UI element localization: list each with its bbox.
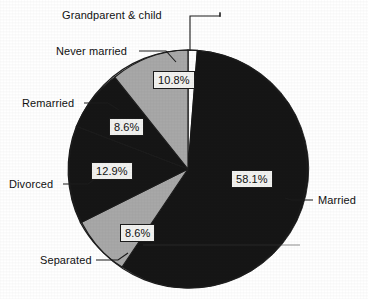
slice-percent-married: 58.1%: [231, 170, 273, 188]
leader-line-grandparent-child: [190, 12, 220, 51]
slice-label-divorced: Divorced: [9, 178, 53, 190]
slice-label-separated: Separated: [40, 254, 92, 266]
slice-percent-divorced: 12.9%: [91, 162, 133, 180]
slice-percent-separated: 8.6%: [120, 224, 155, 242]
slice-label-never-married: Never married: [56, 45, 127, 57]
pie-chart: Grandparent & child Never married Remarr…: [0, 0, 368, 299]
slice-percent-remarried: 8.6%: [109, 118, 144, 136]
slice-label-married: Married: [318, 194, 356, 206]
slice-label-grandparent-child: Grandparent & child: [62, 9, 162, 21]
slice-percent-never-married: 10.8%: [153, 71, 195, 89]
slice-label-remarried: Remarried: [22, 97, 74, 109]
